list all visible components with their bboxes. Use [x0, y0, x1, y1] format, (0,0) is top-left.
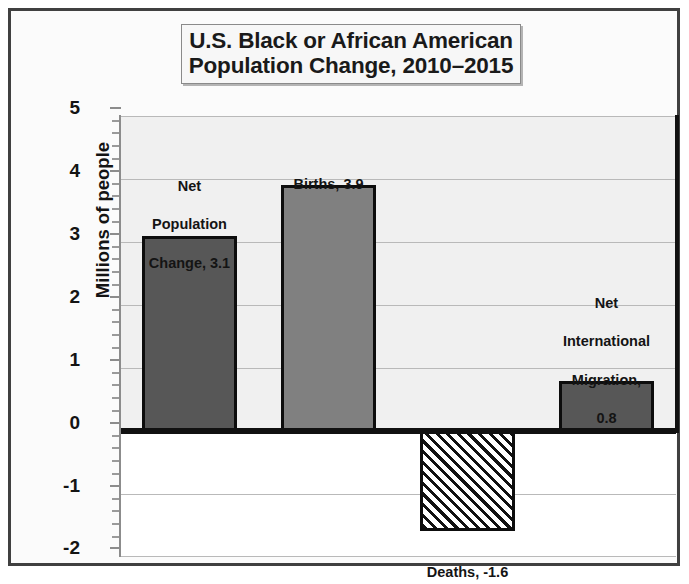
chart-frame: Net Population Change, 3.1 Births, 3.9 D… [8, 8, 680, 566]
y-tick-label-minus-2: -2 [20, 537, 80, 559]
y-tick-label-5: 5 [20, 97, 80, 119]
plot-right-border [675, 115, 679, 433]
chart-title-line-2: Population Change, 2010–2015 [188, 53, 514, 78]
data-label-line: Migration, [544, 371, 669, 390]
y-tick-major-1 [110, 359, 121, 361]
y-tick-label-3: 3 [20, 223, 80, 245]
y-axis-line [119, 115, 121, 557]
y-tick-minor [112, 410, 119, 412]
y-tick-minor [112, 347, 119, 349]
y-tick-minor [112, 372, 119, 374]
y-tick-minor [112, 397, 119, 399]
plot-area: Net Population Change, 3.1 Births, 3.9 D… [121, 116, 676, 556]
data-label-line: Births, 3.9 [266, 175, 391, 194]
y-tick-major-0 [110, 422, 121, 424]
data-label-births: Births, 3.9 [266, 156, 391, 213]
y-tick-label-1: 1 [20, 349, 80, 371]
data-label-line: 0.8 [544, 409, 669, 428]
bar-births[interactable] [281, 185, 376, 434]
gridline-minus-2 [121, 556, 676, 557]
y-tick-label-2: 2 [20, 286, 80, 308]
y-tick-major-minus-2 [110, 547, 121, 549]
data-label-line: International [544, 332, 669, 351]
chart-title: U.S. Black or African American Populatio… [181, 24, 521, 84]
data-label-line: Deaths, -1.6 [405, 563, 530, 582]
data-label-line: Population [127, 215, 252, 234]
gridline-5 [121, 116, 676, 117]
y-tick-major-minus-1 [110, 485, 121, 487]
y-tick-label-0: 0 [20, 412, 80, 434]
y-tick-label-minus-1: -1 [20, 475, 80, 497]
y-tick-minor [112, 536, 119, 538]
data-label-deaths: Deaths, -1.6 [405, 544, 530, 584]
y-tick-minor [112, 523, 119, 525]
y-tick-label-4: 4 [20, 160, 80, 182]
y-tick-minor [112, 435, 119, 437]
y-tick-minor [112, 498, 119, 500]
y-axis-title: Millions of people [92, 100, 114, 340]
data-label-net-population-change: Net Population Change, 3.1 [127, 158, 252, 292]
data-label-net-international-migration: Net International Migration, 0.8 [544, 275, 669, 447]
y-tick-minor [112, 510, 119, 512]
y-tick-minor [112, 473, 119, 475]
y-tick-minor [112, 447, 119, 449]
chart-title-line-1: U.S. Black or African American [188, 28, 514, 53]
data-label-line: Change, 3.1 [127, 254, 252, 273]
gridline-minus-1 [121, 494, 676, 495]
y-tick-minor [112, 460, 119, 462]
y-tick-minor [112, 384, 119, 386]
bar-deaths[interactable] [420, 429, 515, 531]
data-label-line: Net [127, 177, 252, 196]
data-label-line: Net [544, 294, 669, 313]
